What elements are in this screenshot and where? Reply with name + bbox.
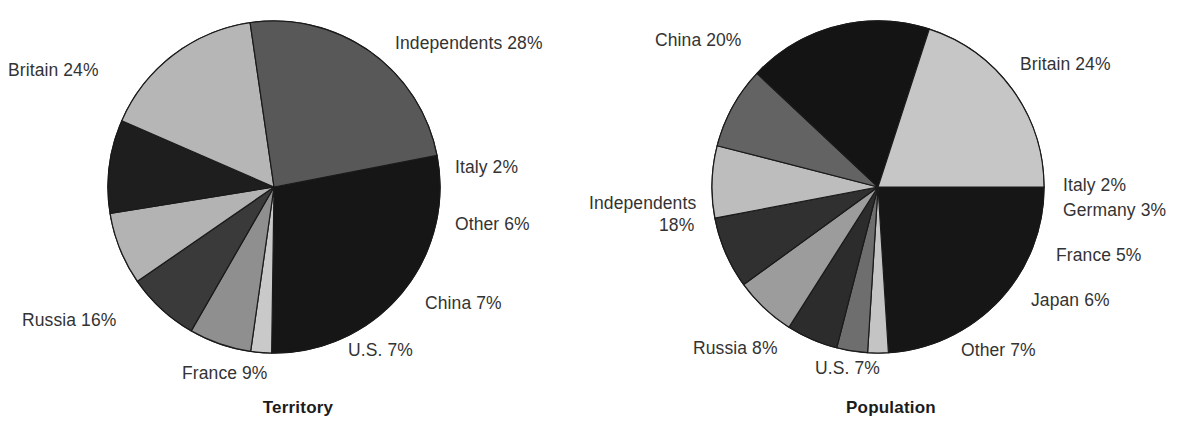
population-chart-figure: Population China 20%Britain 24%Italy 2%G…: [593, 0, 1189, 446]
pie-label-territory-5: U.S. 7%: [348, 340, 413, 361]
pie-label-population-10: 18%: [659, 215, 694, 236]
territory-chart-figure: Territory Independents 28%Britain 24%Ita…: [0, 0, 596, 446]
pie-label-territory-6: France 9%: [182, 363, 268, 384]
pie-label-territory-1: Britain 24%: [8, 60, 99, 81]
pie-label-population-6: Other 7%: [961, 340, 1036, 361]
pie-label-territory-4: China 7%: [425, 293, 502, 314]
pie-label-territory-7: Russia 16%: [22, 310, 116, 331]
pie-label-population-2: Italy 2%: [1063, 175, 1126, 196]
pie-label-population-3: Germany 3%: [1063, 200, 1166, 221]
territory-chart-title: Territory: [0, 398, 596, 418]
pie-label-territory-0: Independents 28%: [395, 33, 543, 54]
pie-label-population-9: Independents: [589, 193, 696, 214]
pie-label-territory-3: Other 6%: [455, 214, 530, 235]
pie-label-territory-2: Italy 2%: [455, 157, 518, 178]
pie-label-population-7: U.S. 7%: [815, 358, 880, 379]
pie-label-population-5: Japan 6%: [1031, 290, 1110, 311]
pie-label-population-0: China 20%: [655, 30, 742, 51]
pie-label-population-1: Britain 24%: [1020, 54, 1111, 75]
pie-label-population-4: France 5%: [1056, 245, 1142, 266]
pie-slice-britain[interactable]: [878, 187, 1044, 353]
population-chart-title: Population: [593, 398, 1189, 418]
pie-slice-independents[interactable]: [272, 155, 440, 353]
pie-label-population-8: Russia 8%: [693, 338, 778, 359]
